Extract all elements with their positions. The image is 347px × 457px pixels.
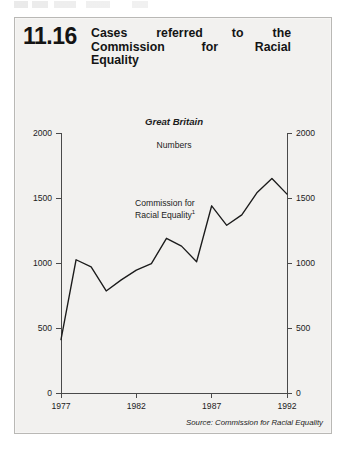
svg-text:1987: 1987	[202, 401, 221, 411]
svg-text:0: 0	[296, 388, 301, 398]
svg-text:1000: 1000	[296, 258, 315, 268]
figure-title-line-3: Equality	[91, 54, 291, 68]
svg-text:500: 500	[296, 323, 311, 333]
svg-text:1500: 1500	[296, 193, 315, 203]
svg-text:2000: 2000	[296, 128, 315, 138]
scan-artifact-sliver	[14, 1, 164, 8]
svg-text:1500: 1500	[33, 193, 52, 203]
figure-number: 11.16	[23, 25, 77, 48]
chart-series-group	[61, 179, 287, 340]
svg-text:500: 500	[38, 323, 53, 333]
line-chart-plot: 0050050010001000150015002000200019771982…	[15, 90, 333, 435]
figure-header: 11.16 Cases referred to the Commission f…	[15, 18, 333, 90]
svg-text:2000: 2000	[33, 128, 52, 138]
chart-axes: 0050050010001000150015002000200019771982…	[33, 128, 315, 411]
chart-area: Great Britain Numbers Commission for Rac…	[15, 90, 333, 435]
svg-text:0: 0	[47, 388, 52, 398]
figure-panel: 11.16 Cases referred to the Commission f…	[14, 17, 332, 434]
svg-text:1977: 1977	[51, 401, 70, 411]
svg-text:1992: 1992	[277, 401, 296, 411]
data-line-commission-for-racial-equality	[61, 179, 287, 340]
source-note: Source: Commission for Racial Equality	[186, 418, 323, 427]
svg-text:1982: 1982	[127, 401, 146, 411]
svg-text:1000: 1000	[33, 258, 52, 268]
figure-page: 11.16 Cases referred to the Commission f…	[0, 0, 347, 457]
figure-title: Cases referred to the Commission for Rac…	[91, 27, 291, 68]
figure-title-line-2: Commission for Racial	[91, 41, 291, 55]
figure-title-line-1: Cases referred to the	[91, 27, 291, 41]
